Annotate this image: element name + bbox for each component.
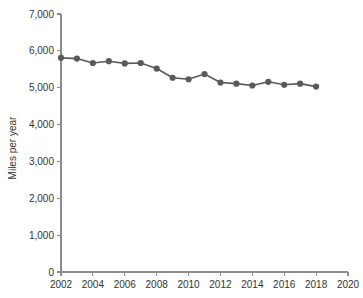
data-point-marker xyxy=(58,55,64,61)
data-point-marker xyxy=(138,60,144,66)
x-tick-label: 2008 xyxy=(146,279,169,290)
data-point-marker xyxy=(297,81,303,87)
data-point-marker xyxy=(106,58,112,64)
y-tick-label: 6,000 xyxy=(29,45,54,56)
data-point-marker xyxy=(233,81,239,87)
x-tick-label: 2010 xyxy=(177,279,200,290)
y-tick-label: 0 xyxy=(48,267,54,278)
data-point-marker xyxy=(217,79,223,85)
data-point-marker xyxy=(265,79,271,85)
data-point-marker xyxy=(281,82,287,88)
data-point-marker xyxy=(185,76,191,82)
x-tick-label: 2020 xyxy=(337,279,360,290)
data-point-marker xyxy=(74,56,80,62)
data-point-marker xyxy=(122,60,128,66)
x-tick-label: 2006 xyxy=(114,279,137,290)
x-tick-label: 2018 xyxy=(305,279,328,290)
y-axis: 01,0002,0003,0004,0005,0006,0007,000 xyxy=(29,9,61,278)
data-point-marker xyxy=(201,71,207,77)
data-point-marker xyxy=(154,65,160,71)
x-tick-label: 2016 xyxy=(273,279,296,290)
plot-area xyxy=(58,55,319,90)
y-tick-label: 7,000 xyxy=(29,9,54,20)
y-tick-label: 5,000 xyxy=(29,82,54,93)
x-axis: 2002200420062008201020122014201620182020 xyxy=(50,272,360,290)
chart-container: 01,0002,0003,0004,0005,0006,0007,000 200… xyxy=(0,0,363,298)
data-point-marker xyxy=(170,75,176,81)
data-point-marker xyxy=(90,60,96,66)
line-chart: 01,0002,0003,0004,0005,0006,0007,000 200… xyxy=(0,0,363,298)
x-tick-label: 2014 xyxy=(241,279,264,290)
data-point-marker xyxy=(249,82,255,88)
data-point-marker xyxy=(313,84,319,90)
y-tick-label: 2,000 xyxy=(29,193,54,204)
x-tick-label: 2004 xyxy=(82,279,105,290)
y-tick-label: 3,000 xyxy=(29,156,54,167)
y-tick-label: 1,000 xyxy=(29,230,54,241)
y-tick-label: 4,000 xyxy=(29,119,54,130)
y-axis-title: Miles per year xyxy=(7,116,18,179)
x-tick-label: 2002 xyxy=(50,279,73,290)
x-tick-label: 2012 xyxy=(209,279,232,290)
